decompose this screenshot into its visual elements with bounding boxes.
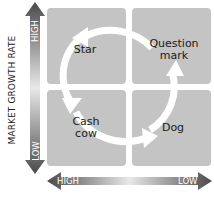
x-axis-high-label: HIGH	[57, 176, 79, 186]
arrowhead-to-question-mark	[166, 60, 184, 76]
arrowhead-to-dog	[142, 128, 158, 148]
y-axis-high-label: HIGH	[30, 20, 40, 42]
label-star: Star	[70, 44, 100, 56]
label-question-mark-line2: mark	[140, 50, 208, 62]
label-cash-cow-line2: cow	[68, 128, 104, 140]
y-axis-low-label: LOW	[31, 141, 41, 161]
label-question-mark: Question mark	[140, 38, 208, 62]
label-dog: Dog	[158, 122, 188, 134]
label-cash-cow: Cash cow	[68, 116, 104, 140]
x-axis-low-label: LOW	[178, 176, 198, 186]
